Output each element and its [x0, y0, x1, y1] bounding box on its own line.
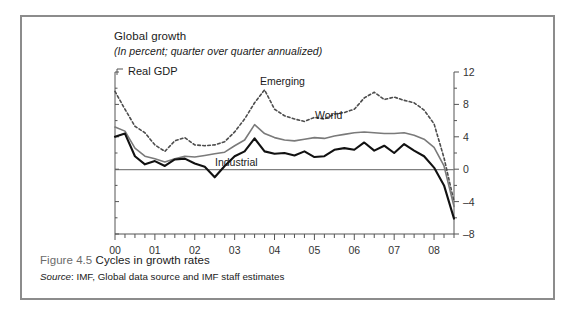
- y-tick-label: –8: [463, 228, 475, 240]
- figure-source: Source: IMF, Global data source and IMF …: [40, 269, 520, 284]
- series-line-industrial: [115, 134, 454, 219]
- y-tick-label: 8: [463, 98, 469, 110]
- figure-caption: Figure 4.5 Cycles in growth rates: [40, 252, 520, 268]
- source-text: : IMF, Global data source and IMF staff …: [71, 271, 284, 282]
- series-label-world: World: [315, 109, 342, 121]
- y-tick-label: 4: [463, 131, 469, 143]
- figure-frame: Global growth (In percent; quarter over …: [20, 15, 555, 300]
- figure-number: Figure 4.5: [40, 254, 92, 266]
- panel-label-group: Real GDP: [117, 65, 178, 77]
- source-label: Source: [40, 271, 71, 282]
- series-label-industrial: Industrial: [215, 156, 258, 168]
- x-axis-minor-ticks: [125, 234, 454, 238]
- panel-label: Real GDP: [128, 65, 178, 77]
- y-tick-label: 12: [463, 66, 475, 78]
- series-label-emerging: Emerging: [260, 75, 305, 87]
- figure-caption-text: Cycles in growth rates: [96, 254, 210, 266]
- chart-series-group: [115, 90, 454, 219]
- y-tick-label: –4: [463, 196, 475, 208]
- x-axis-major-ticks: [115, 234, 434, 240]
- y-axis-tick-labels: –8–404812: [463, 66, 475, 240]
- y-tick-label: 0: [463, 163, 469, 175]
- figure-caption-block: Figure 4.5 Cycles in growth rates Source…: [40, 252, 520, 284]
